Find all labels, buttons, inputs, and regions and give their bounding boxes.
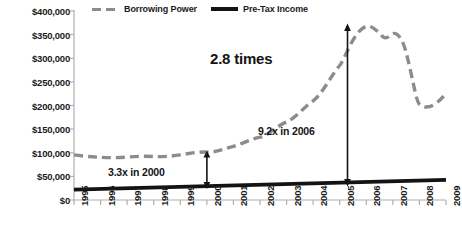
x-axis-labels: 1995 1996 1997 1998 1999 2000 2001 2002 … [0, 203, 451, 248]
x-tick-1995: 1995 [79, 186, 90, 206]
annotation-9-2x-2006: 9.2x in 2006 [258, 125, 315, 137]
arrow-9-2x-2006 [344, 24, 351, 187]
x-tick-2008: 2008 [424, 186, 435, 206]
x-tick-2006: 2006 [371, 186, 382, 206]
x-tick-1999: 1999 [185, 186, 196, 206]
x-tick-1997: 1997 [132, 186, 143, 206]
series-borrowing-power [74, 26, 446, 158]
series-pre-tax-income [74, 180, 446, 190]
x-tick-2003: 2003 [292, 186, 303, 206]
annotation-3-3x-2000: 3.3x in 2000 [108, 166, 165, 178]
arrow-3-3x-2000 [204, 151, 211, 189]
x-tick-2009: 2009 [451, 186, 462, 206]
x-tick-2005: 2005 [345, 186, 356, 206]
x-tick-2007: 2007 [398, 186, 409, 206]
annotation-2-8-times: 2.8 times [210, 50, 272, 67]
x-tick-2004: 2004 [318, 186, 329, 206]
x-tick-2002: 2002 [265, 186, 276, 206]
x-tick-1996: 1996 [106, 186, 117, 206]
x-tick-2000: 2000 [212, 186, 223, 206]
x-tick-1998: 1998 [159, 186, 170, 206]
x-tick-2001: 2001 [238, 186, 249, 206]
